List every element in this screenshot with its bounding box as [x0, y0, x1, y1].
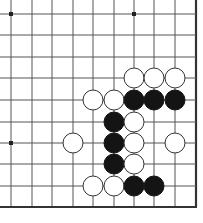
go-board[interactable]	[0, 0, 203, 223]
white-stone[interactable]	[124, 68, 144, 88]
white-stone[interactable]	[63, 133, 83, 153]
black-stone[interactable]	[104, 133, 124, 153]
white-stone[interactable]	[124, 133, 144, 153]
white-stone[interactable]	[144, 68, 164, 88]
white-stone[interactable]	[165, 68, 185, 88]
black-stone[interactable]	[124, 90, 144, 110]
white-stone[interactable]	[104, 176, 124, 196]
white-stone[interactable]	[124, 154, 144, 174]
star-point-icon	[9, 12, 13, 16]
black-stone[interactable]	[104, 112, 124, 132]
black-stone[interactable]	[144, 176, 164, 196]
black-stone[interactable]	[104, 154, 124, 174]
black-stone[interactable]	[165, 90, 185, 110]
star-point-icon	[9, 141, 13, 145]
black-stone[interactable]	[124, 176, 144, 196]
black-stone[interactable]	[144, 90, 164, 110]
stones-layer	[63, 68, 185, 196]
white-stone[interactable]	[83, 176, 103, 196]
white-stone[interactable]	[83, 90, 103, 110]
white-stone[interactable]	[104, 90, 124, 110]
star-point-icon	[132, 12, 136, 16]
white-stone[interactable]	[165, 133, 185, 153]
white-stone[interactable]	[124, 112, 144, 132]
